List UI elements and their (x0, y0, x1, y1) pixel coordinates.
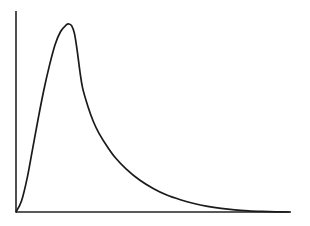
chart (0, 0, 310, 226)
distribution-curve (16, 24, 289, 212)
